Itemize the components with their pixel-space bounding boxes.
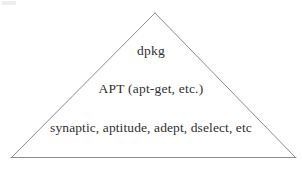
layer-label-dpkg: dpkg <box>0 44 302 58</box>
diagram-canvas: dpkg APT (apt-get, etc.) synaptic, aptit… <box>0 0 302 171</box>
layer-label-frontends: synaptic, aptitude, adept, dselect, etc <box>0 121 302 135</box>
layer-label-apt: APT (apt-get, etc.) <box>0 82 302 96</box>
